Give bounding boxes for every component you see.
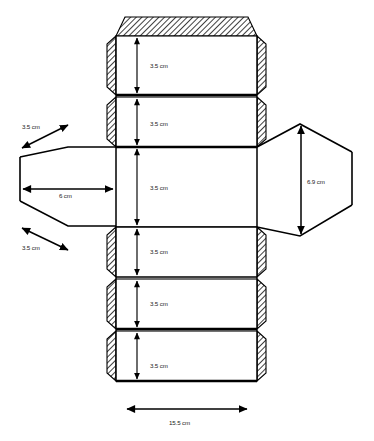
right-glue-flap-panel-5 [257,279,266,329]
panel-5-height-label: 3.5 cm [150,300,168,307]
net-width-label: 15.5 cm [169,419,190,426]
hexagonal-prism-net-diagram: 3.5 cm 3.5 cm 3.5 cm 3.5 cm 3.5 cm 3.5 c… [0,0,374,441]
hexagon-side-lower-label: 3.5 cm [22,244,40,251]
right-hexagon-face [257,124,352,236]
panel-1-height-label: 3.5 cm [150,62,168,69]
left-glue-flap-panel-5 [107,279,116,329]
left-glue-flap-panel-4 [107,227,116,277]
left-glue-flap-panel-2 [107,97,116,147]
left-hexagon-face [20,147,116,226]
right-glue-flap-panel-2 [257,97,266,147]
right-glue-flap-panel-1 [257,36,266,95]
panel-6-height-label: 3.5 cm [150,362,168,369]
hexagon-side-upper-label: 3.5 cm [22,123,40,130]
left-glue-flap-panel-6 [107,331,116,381]
left-glue-flap-panel-1 [107,36,116,95]
panel-3-height-label: 3.5 cm [150,184,168,191]
right-glue-flap-panel-4 [257,227,266,277]
panel-2-height-label: 3.5 cm [150,120,168,127]
net-drawing: 3.5 cm 3.5 cm 3.5 cm 3.5 cm 3.5 cm 3.5 c… [0,0,374,441]
right-glue-flap-panel-6 [257,331,266,381]
panel-4-height-label: 3.5 cm [150,248,168,255]
top-glue-flap [116,17,257,36]
hexagon-height-label: 6.9 cm [307,178,325,185]
hexagon-width-label: 6 cm [59,192,72,199]
